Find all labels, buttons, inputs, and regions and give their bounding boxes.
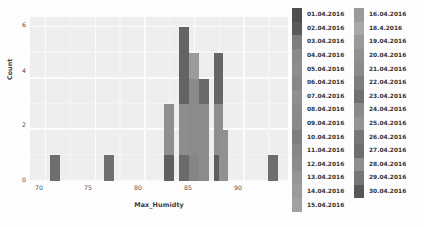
legend-item[interactable]: 19.04.2016	[354, 35, 424, 49]
legend-label: 01.04.2016	[307, 11, 344, 18]
legend-label: 18.4.2016	[369, 25, 402, 32]
legend-item[interactable]: 05.04.2016	[292, 62, 354, 76]
bar-segment	[179, 155, 189, 181]
bar-segment	[164, 104, 174, 155]
bar-segment	[214, 53, 224, 104]
legend-label: 20.04.2016	[369, 52, 406, 59]
legend-item[interactable]: 12.04.2016	[292, 158, 354, 172]
legend-item[interactable]: 02.04.2016	[292, 22, 354, 36]
legend-swatch	[354, 76, 364, 90]
histogram-bar	[50, 155, 60, 181]
bar-segment	[189, 79, 199, 156]
legend-label: 16.04.2016	[369, 11, 406, 18]
legend-item[interactable]: 14.04.2016	[292, 185, 354, 199]
legend-label: 06.04.2016	[307, 79, 344, 86]
histogram-bar	[268, 155, 278, 181]
legend-swatch	[354, 158, 364, 172]
histogram-bar	[199, 79, 209, 182]
histogram-figure: 6 4 2 0 Count 70 75 80 85 90 Max_Humidty…	[0, 0, 424, 227]
legend-item[interactable]: 03.04.2016	[292, 35, 354, 49]
bar-segment	[179, 104, 189, 155]
legend-label: 30.04.2016	[369, 188, 406, 195]
gridline-v-70	[45, 17, 46, 181]
legend-label: 28.04.2016	[369, 161, 406, 168]
legend-label: 04.04.2016	[307, 52, 344, 59]
legend-swatch	[354, 22, 364, 36]
plot-area	[30, 17, 288, 181]
bar-segment	[199, 104, 209, 181]
legend-item[interactable]: 09.04.2016	[292, 117, 354, 131]
gridline-h-minor-3	[30, 103, 288, 104]
legend-item[interactable]: 25.04.2016	[354, 117, 424, 131]
legend-item[interactable]: 29.04.2016	[354, 171, 424, 185]
legend-swatch	[354, 35, 364, 49]
bar-segment	[179, 27, 189, 104]
legend-item[interactable]: 27.04.2016	[354, 144, 424, 158]
legend-swatch	[292, 49, 302, 63]
legend-item[interactable]: 28.04.2016	[354, 158, 424, 172]
bar-segment	[268, 155, 278, 181]
y-tick-label-0: 0	[8, 177, 26, 183]
gridline-v-75	[95, 17, 96, 181]
legend-item[interactable]: 10.04.2016	[292, 130, 354, 144]
legend-item[interactable]: 08.04.2016	[292, 103, 354, 117]
bar-segment	[50, 155, 60, 181]
legend-label: 05.04.2016	[307, 66, 344, 73]
legend-item[interactable]: 01.04.2016	[292, 8, 354, 22]
gridline-v-90	[243, 17, 244, 181]
legend-item[interactable]: 04.04.2016	[292, 49, 354, 63]
legend-item[interactable]: 18.4.2016	[354, 22, 424, 36]
legend: 01.04.201602.04.201603.04.201604.04.2016…	[292, 8, 424, 220]
legend-label: 10.04.2016	[307, 134, 344, 141]
legend-label: 14.04.2016	[307, 188, 344, 195]
legend-item[interactable]: 13.04.2016	[292, 171, 354, 185]
legend-swatch	[292, 198, 302, 212]
legend-swatch	[292, 76, 302, 90]
legend-swatch	[354, 185, 364, 199]
legend-label: 23.04.2016	[369, 93, 406, 100]
legend-item[interactable]: 16.04.2016	[354, 8, 424, 22]
legend-swatch	[292, 35, 302, 49]
gridline-h-4	[30, 77, 288, 78]
y-tick-label-2: 2	[8, 122, 26, 128]
x-tick-label-85: 85	[178, 184, 198, 191]
legend-item[interactable]: 11.04.2016	[292, 144, 354, 158]
legend-column-1: 01.04.201602.04.201603.04.201604.04.2016…	[292, 8, 354, 220]
plot-container: 6 4 2 0 Count 70 75 80 85 90 Max_Humidty	[0, 0, 292, 227]
legend-item[interactable]: 23.04.2016	[354, 90, 424, 104]
legend-item[interactable]: 21.04.2016	[354, 62, 424, 76]
x-tick-label-70: 70	[29, 184, 49, 191]
gridline-h-6	[30, 26, 288, 27]
legend-label: 13.04.2016	[307, 174, 344, 181]
legend-swatch	[354, 171, 364, 185]
bar-segment	[104, 155, 114, 181]
legend-item[interactable]: 26.04.2016	[354, 130, 424, 144]
legend-column-2: 16.04.201618.4.201619.04.201620.04.20162…	[354, 8, 424, 220]
legend-item[interactable]: 06.04.2016	[292, 76, 354, 90]
legend-swatch	[354, 103, 364, 117]
legend-item[interactable]: 20.04.2016	[354, 49, 424, 63]
histogram-bar	[189, 53, 199, 181]
bar-segment	[199, 79, 209, 105]
gridline-h-minor-1	[30, 154, 288, 155]
legend-swatch	[292, 103, 302, 117]
legend-swatch	[354, 90, 364, 104]
legend-swatch	[354, 8, 364, 22]
x-tick-label-75: 75	[78, 184, 98, 191]
legend-swatch	[292, 185, 302, 199]
legend-item[interactable]: 30.04.2016	[354, 185, 424, 199]
legend-item[interactable]: 07.04.2016	[292, 90, 354, 104]
legend-item[interactable]: 22.04.2016	[354, 76, 424, 90]
legend-label: 09.04.2016	[307, 120, 344, 127]
gridline-v-minor-72.5	[70, 17, 71, 181]
legend-swatch	[354, 130, 364, 144]
legend-swatch	[354, 144, 364, 158]
legend-label: 19.04.2016	[369, 38, 406, 45]
legend-item[interactable]: 15.04.2016	[292, 198, 354, 212]
legend-swatch	[292, 130, 302, 144]
legend-label: 27.04.2016	[369, 147, 406, 154]
legend-item[interactable]: 24.04.2016	[354, 103, 424, 117]
legend-swatch	[292, 62, 302, 76]
histogram-bar	[179, 27, 189, 181]
x-tick-label-80: 80	[128, 184, 148, 191]
